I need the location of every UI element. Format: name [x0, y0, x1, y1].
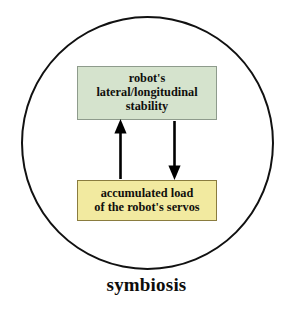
- node-load-line-1: accumulated load: [101, 187, 194, 201]
- enclosing-circle: [21, 16, 274, 270]
- node-stability-line-3: stability: [126, 100, 168, 114]
- node-robot-stability: robot's lateral/longitudinal stability: [77, 66, 217, 120]
- node-accumulated-load: accumulated load of the robot's servos: [77, 180, 217, 221]
- node-stability-line-1: robot's: [129, 72, 166, 86]
- symbiosis-diagram: robot's lateral/longitudinal stability a…: [0, 0, 293, 312]
- figure-caption: symbiosis: [0, 274, 293, 296]
- node-load-line-2: of the robot's servos: [94, 201, 199, 215]
- node-stability-line-2: lateral/longitudinal: [96, 86, 197, 100]
